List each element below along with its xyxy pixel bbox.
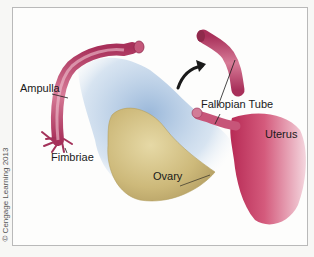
label-fallopian-tube: Fallopian Tube: [201, 99, 273, 110]
label-ovary: Ovary: [153, 171, 182, 182]
detached-tube-segment: [203, 36, 238, 90]
copyright-notice: © Cengage Learning 2013: [1, 152, 10, 242]
label-fimbriae: Fimbriae: [51, 152, 94, 163]
label-ampulla: Ampulla: [20, 83, 60, 94]
label-uterus: Uterus: [265, 129, 297, 140]
